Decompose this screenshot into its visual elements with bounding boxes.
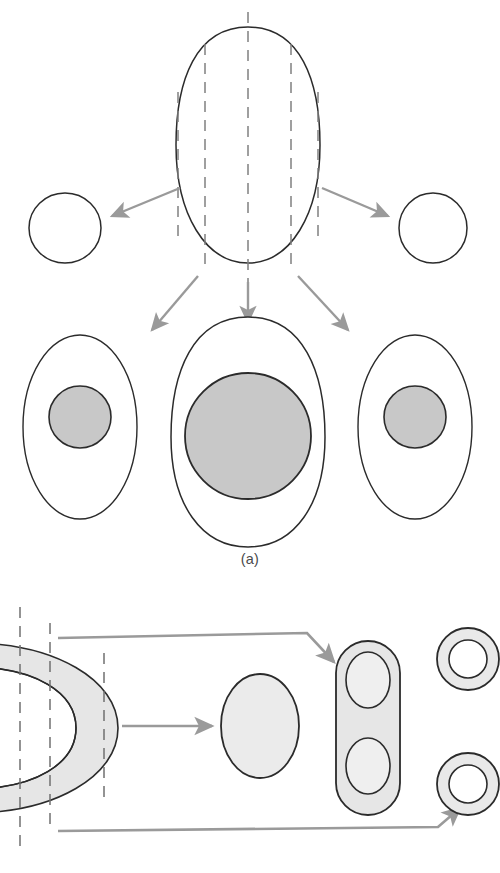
section-far-right: [399, 193, 467, 263]
section-center: [171, 317, 325, 547]
arrow-b-bottom: [58, 808, 460, 831]
panel-a: (a): [0, 0, 500, 585]
panel-b: (b): [0, 585, 500, 873]
panel-a-upper-arrows: [112, 188, 388, 216]
section-b-ring-upper: [437, 628, 499, 690]
section-center-nucleus: [185, 373, 311, 499]
horseshoe-shape-group: [0, 643, 118, 813]
section-left: [23, 335, 137, 519]
cavity-lower: [346, 738, 390, 794]
cut-lines-group: [178, 12, 318, 300]
section-b-ellipse: [221, 674, 299, 778]
section-far-left: [29, 193, 101, 263]
horseshoe-body: [0, 643, 118, 813]
ring-upper-inner: [449, 640, 487, 678]
section-right: [358, 335, 472, 519]
cavity-upper: [346, 652, 390, 708]
section-right-nucleus: [384, 386, 446, 448]
arrow-a-left: [152, 276, 198, 330]
panel-b-canvas: [0, 585, 500, 873]
section-left-nucleus: [49, 386, 111, 448]
arrow-b-top: [58, 633, 334, 662]
panel-a-canvas: [0, 0, 500, 585]
arrow-a-right: [298, 276, 348, 330]
figure-root: (a): [0, 0, 500, 873]
section-b-stadium: [336, 641, 400, 815]
ring-lower-inner: [449, 765, 487, 803]
arrow-a-far-left: [112, 188, 180, 216]
arrow-a-far-right: [322, 188, 388, 216]
section-b-ring-lower: [437, 753, 499, 815]
panel-a-caption: (a): [0, 551, 500, 567]
